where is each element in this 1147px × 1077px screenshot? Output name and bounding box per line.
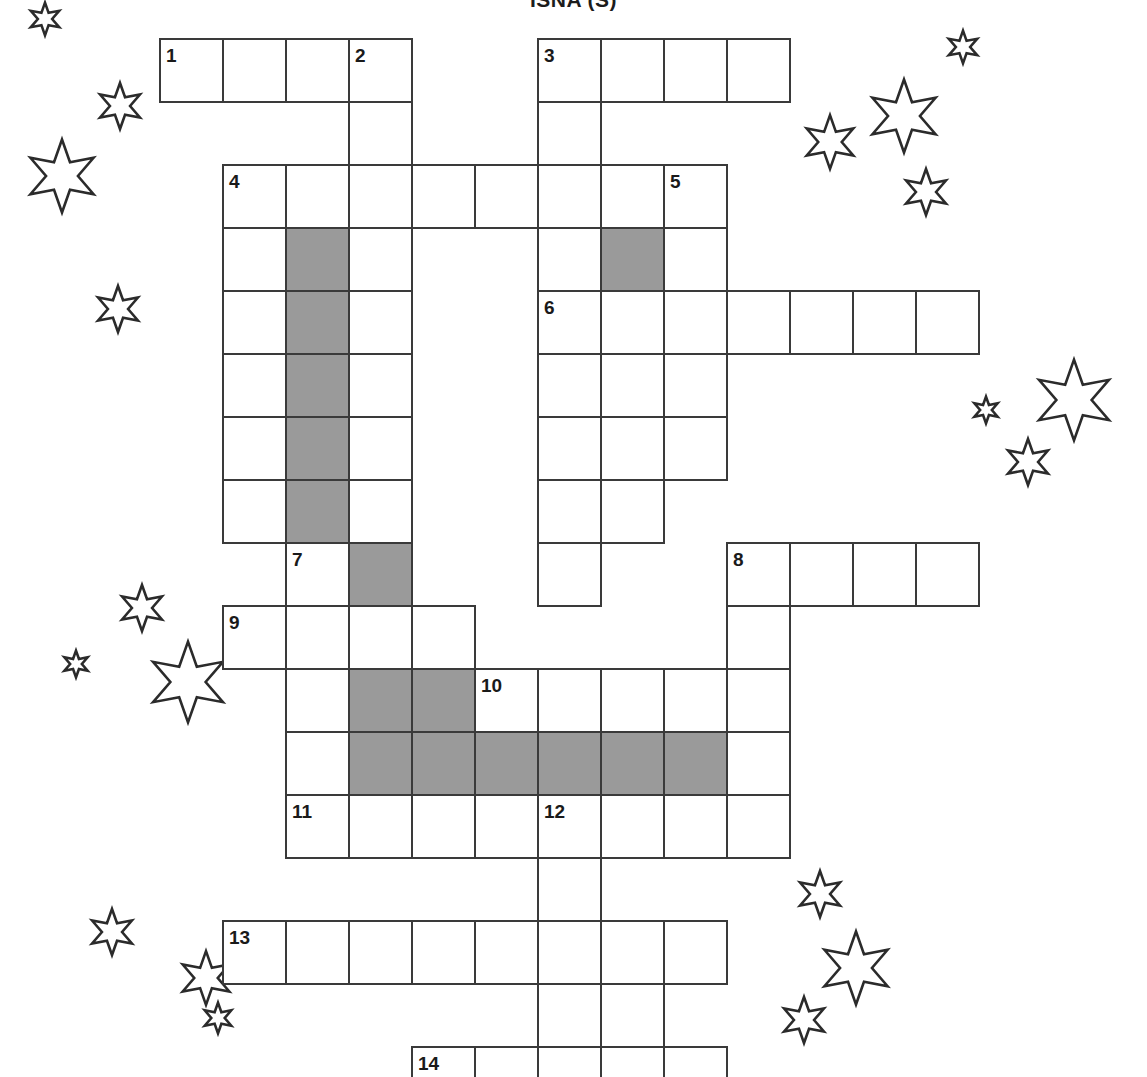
crossword-cell[interactable]	[348, 227, 413, 292]
crossword-cell[interactable]	[663, 290, 728, 355]
crossword-cell-blocked	[348, 731, 413, 796]
clue-number-12: 12	[544, 802, 565, 821]
crossword-cell[interactable]	[348, 794, 413, 859]
crossword-cell[interactable]	[348, 101, 413, 166]
crossword-cell[interactable]	[852, 542, 917, 607]
crossword-cell-blocked	[285, 227, 350, 292]
crossword-cell[interactable]	[726, 290, 791, 355]
crossword-cell[interactable]	[600, 668, 665, 733]
crossword-cell[interactable]	[285, 920, 350, 985]
crossword-cell[interactable]	[474, 164, 539, 229]
crossword-cell[interactable]	[348, 416, 413, 481]
crossword-cell[interactable]	[348, 920, 413, 985]
crossword-cell[interactable]	[285, 668, 350, 733]
crossword-cell[interactable]	[726, 668, 791, 733]
clue-number-13: 13	[229, 928, 250, 947]
crossword-page: ISNA (S) 1234567891011121314	[0, 0, 1147, 1077]
crossword-cell[interactable]	[600, 794, 665, 859]
crossword-cell[interactable]	[852, 290, 917, 355]
crossword-cell[interactable]	[726, 605, 791, 670]
crossword-cell[interactable]	[663, 353, 728, 418]
crossword-cell[interactable]	[600, 479, 665, 544]
crossword-cell-blocked	[411, 668, 476, 733]
crossword-cell-blocked	[600, 731, 665, 796]
crossword-cell[interactable]	[222, 290, 287, 355]
crossword-cell[interactable]	[285, 164, 350, 229]
crossword-cell[interactable]	[222, 353, 287, 418]
crossword-cell[interactable]	[726, 38, 791, 103]
crossword-cell-blocked	[537, 731, 602, 796]
crossword-cell[interactable]	[600, 416, 665, 481]
crossword-cell[interactable]	[537, 416, 602, 481]
crossword-cell[interactable]	[474, 1046, 539, 1077]
crossword-cell[interactable]	[285, 38, 350, 103]
clue-number-14: 14	[418, 1054, 439, 1073]
crossword-cell[interactable]	[915, 542, 980, 607]
crossword-cell[interactable]	[474, 794, 539, 859]
crossword-cell-blocked	[285, 353, 350, 418]
crossword-cell-blocked	[285, 290, 350, 355]
crossword-cell-blocked	[285, 479, 350, 544]
crossword-cell[interactable]	[663, 38, 728, 103]
crossword-cell[interactable]	[663, 1046, 728, 1077]
clue-number-10: 10	[481, 676, 502, 695]
crossword-cell[interactable]	[411, 794, 476, 859]
clue-number-1: 1	[166, 46, 177, 65]
clue-number-7: 7	[292, 550, 303, 569]
crossword-cell[interactable]	[474, 920, 539, 985]
crossword-cell[interactable]	[537, 101, 602, 166]
crossword-cell[interactable]	[222, 38, 287, 103]
crossword-cell[interactable]	[600, 164, 665, 229]
crossword-cell[interactable]	[348, 290, 413, 355]
crossword-cell[interactable]	[537, 668, 602, 733]
crossword-cell[interactable]	[663, 227, 728, 292]
crossword-cell-blocked	[663, 731, 728, 796]
crossword-cell[interactable]	[537, 857, 602, 922]
crossword-cell[interactable]	[600, 353, 665, 418]
crossword-cell[interactable]	[600, 38, 665, 103]
crossword-cell[interactable]	[537, 164, 602, 229]
crossword-cell[interactable]	[600, 983, 665, 1048]
crossword-cell[interactable]	[285, 731, 350, 796]
crossword-cell[interactable]	[222, 479, 287, 544]
crossword-cell[interactable]	[600, 1046, 665, 1077]
crossword-cell-blocked	[348, 542, 413, 607]
crossword-cell[interactable]	[285, 605, 350, 670]
crossword-cell[interactable]	[726, 794, 791, 859]
clue-number-2: 2	[355, 46, 366, 65]
crossword-cell[interactable]	[537, 479, 602, 544]
crossword-cell[interactable]	[348, 605, 413, 670]
crossword-cell[interactable]	[663, 668, 728, 733]
crossword-cell[interactable]	[222, 416, 287, 481]
crossword-cell[interactable]	[600, 920, 665, 985]
crossword-cell[interactable]	[537, 983, 602, 1048]
crossword-cell[interactable]	[915, 290, 980, 355]
crossword-cell[interactable]	[537, 920, 602, 985]
crossword-grid: 1234567891011121314	[0, 0, 1147, 1077]
crossword-cell-blocked	[600, 227, 665, 292]
clue-number-8: 8	[733, 550, 744, 569]
crossword-cell[interactable]	[537, 542, 602, 607]
crossword-cell[interactable]	[537, 1046, 602, 1077]
crossword-cell-blocked	[285, 416, 350, 481]
clue-number-5: 5	[670, 172, 681, 191]
crossword-cell[interactable]	[348, 353, 413, 418]
crossword-cell[interactable]	[663, 794, 728, 859]
crossword-cell[interactable]	[789, 542, 854, 607]
crossword-cell[interactable]	[663, 920, 728, 985]
crossword-cell[interactable]	[537, 353, 602, 418]
crossword-cell-blocked	[348, 668, 413, 733]
crossword-cell[interactable]	[663, 416, 728, 481]
crossword-cell[interactable]	[222, 227, 287, 292]
crossword-cell[interactable]	[600, 290, 665, 355]
crossword-cell[interactable]	[537, 227, 602, 292]
crossword-cell[interactable]	[348, 479, 413, 544]
crossword-cell[interactable]	[411, 605, 476, 670]
crossword-cell[interactable]	[411, 920, 476, 985]
crossword-cell[interactable]	[411, 164, 476, 229]
crossword-cell[interactable]	[348, 164, 413, 229]
clue-number-11: 11	[292, 802, 312, 821]
crossword-cell[interactable]	[726, 731, 791, 796]
crossword-cell[interactable]	[789, 290, 854, 355]
crossword-cell-blocked	[411, 731, 476, 796]
